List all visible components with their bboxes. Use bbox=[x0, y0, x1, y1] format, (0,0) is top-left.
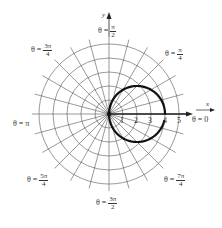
angle-label-3pi-over-4: θ = 3π4 bbox=[31, 43, 52, 58]
grid-spoke bbox=[71, 47, 110, 114]
radial-tick-3: 3 bbox=[148, 117, 152, 125]
y-axis-label: y bbox=[102, 12, 105, 19]
angle-label-3pi-over-2: θ = 3π2 bbox=[96, 196, 117, 211]
angle-label-pi-over-2: θ = π2 bbox=[98, 24, 116, 39]
x-axis-label: x bbox=[206, 101, 209, 108]
radial-tick-5: 5 bbox=[177, 117, 181, 125]
grid-spoke bbox=[109, 76, 176, 115]
grid-spoke bbox=[109, 114, 148, 181]
radial-tick-1: 1 bbox=[120, 117, 124, 125]
angle-label-5pi-over-4: θ = 5π4 bbox=[27, 173, 48, 188]
radial-tick-4: 4 bbox=[163, 117, 167, 125]
y-axis-arrowhead-icon bbox=[107, 12, 112, 19]
grid-spoke bbox=[55, 60, 109, 114]
grid-spoke bbox=[55, 114, 109, 168]
grid-spoke bbox=[109, 47, 148, 114]
angle-label-pi-over-4: θ = π4 bbox=[165, 47, 183, 62]
grid-spoke bbox=[109, 94, 183, 114]
angle-label-zero: θ = 0 bbox=[192, 116, 208, 124]
grid-spoke bbox=[35, 114, 109, 134]
theta-zero-arrowhead-icon bbox=[210, 108, 215, 112]
grid-spoke bbox=[71, 114, 110, 181]
grid-spoke bbox=[89, 40, 109, 114]
radial-tick-2: 2 bbox=[134, 117, 138, 125]
grid-spoke bbox=[42, 76, 109, 115]
grid-spoke bbox=[89, 114, 109, 188]
polar-chart: 1 2 3 4 5 y x θ = π2 θ = 3π4 θ = π4 θ = … bbox=[0, 0, 222, 228]
angle-label-7pi-over-4: θ = 7π4 bbox=[164, 173, 185, 188]
angle-label-pi: θ = π bbox=[13, 120, 29, 128]
grid-spoke bbox=[35, 94, 109, 114]
grid-spoke bbox=[42, 114, 109, 153]
